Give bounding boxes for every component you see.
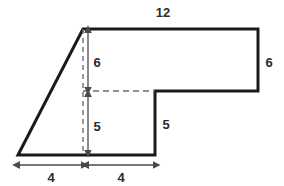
dimension-label-bottom-left-width: 4 bbox=[47, 170, 55, 185]
dimension-label-upper-left-height: 6 bbox=[93, 55, 100, 70]
dimension-label-top-width: 12 bbox=[156, 5, 170, 20]
dimension-label-bottom-right-width: 4 bbox=[117, 170, 125, 185]
dimension-label-right-height: 6 bbox=[265, 55, 272, 70]
figure-canvas: 12 6 6 5 5 4 4 bbox=[0, 0, 284, 186]
composite-shape-diagram: 12 6 6 5 5 4 4 bbox=[0, 0, 284, 186]
dimension-label-notch-height: 5 bbox=[162, 117, 169, 132]
dimension-label-lower-left-height: 5 bbox=[93, 119, 100, 134]
